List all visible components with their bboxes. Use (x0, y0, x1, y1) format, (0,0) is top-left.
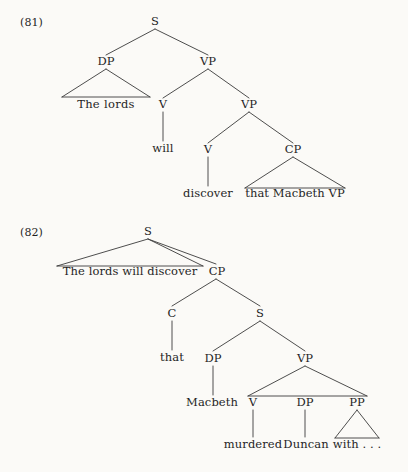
syntax-tree-figure: (81) S DP VP The lords V VP will V CP di… (0, 0, 408, 472)
branch-81-s-dp (106, 29, 155, 55)
node-82-s-embedded: S (256, 308, 264, 320)
node-82-cp: CP (209, 266, 226, 278)
node-81-s: S (151, 16, 159, 28)
node-82-c: C (168, 308, 177, 320)
leaf-81-the-lords: The lords (77, 99, 135, 111)
example-number-81: (81) (20, 17, 43, 28)
node-81-v-aux: V (159, 99, 167, 111)
branch-82-cp-c (172, 279, 216, 306)
branch-81-cp-triangle-left (245, 157, 293, 188)
branch-81-vplower-v (208, 112, 249, 143)
branch-81-s-vp (155, 29, 208, 55)
branch-81-vp-v (163, 69, 208, 98)
node-81-vp-lower: VP (241, 99, 257, 111)
branch-82-pp-triangle-right (357, 410, 379, 438)
node-81-v-main: V (204, 144, 212, 156)
leaf-82-the-lords-will-discover: The lords will discover (63, 266, 198, 278)
node-82-dp: DP (204, 353, 221, 365)
leaf-82-duncan: Duncan (283, 439, 328, 451)
leaf-82-that: that (160, 352, 184, 364)
node-81-dp: DP (97, 56, 114, 68)
node-82-pp: PP (349, 397, 365, 409)
branch-82-pp-triangle-left (335, 410, 357, 438)
node-82-v: V (249, 397, 257, 409)
branch-82-vp-triangle-left (248, 366, 305, 396)
example-number-82: (82) (20, 227, 43, 238)
leaf-82-with: with . . . (333, 439, 381, 451)
node-81-vp-upper: VP (200, 56, 216, 68)
branch-81-vplower-cp (249, 112, 293, 143)
branch-82-s-vp (260, 321, 305, 351)
leaf-81-that-macbeth-vp: that Macbeth VP (245, 188, 345, 200)
branch-82-s-cp (148, 239, 216, 264)
branch-81-cp-triangle-right (293, 157, 345, 188)
branch-81-dp-triangle-right (106, 69, 150, 97)
branch-82-s-triangle-left (57, 239, 148, 266)
leaf-81-will: will (152, 143, 173, 155)
branch-81-dp-triangle-left (62, 69, 106, 97)
node-82-dp-object: DP (296, 397, 313, 409)
node-81-cp: CP (285, 144, 302, 156)
node-82-vp: VP (297, 353, 313, 365)
leaf-82-murdered: murdered (224, 439, 282, 451)
leaf-82-macbeth: Macbeth (186, 397, 238, 409)
branch-82-vp-triangle-right (305, 366, 367, 396)
branch-82-cp-s (216, 279, 260, 306)
branch-82-s-dp (213, 321, 260, 351)
leaf-81-discover: discover (183, 188, 233, 200)
branch-81-vp-vp (208, 69, 249, 98)
branch-82-s-triangle-right (148, 239, 203, 266)
node-82-s-top: S (144, 226, 152, 238)
